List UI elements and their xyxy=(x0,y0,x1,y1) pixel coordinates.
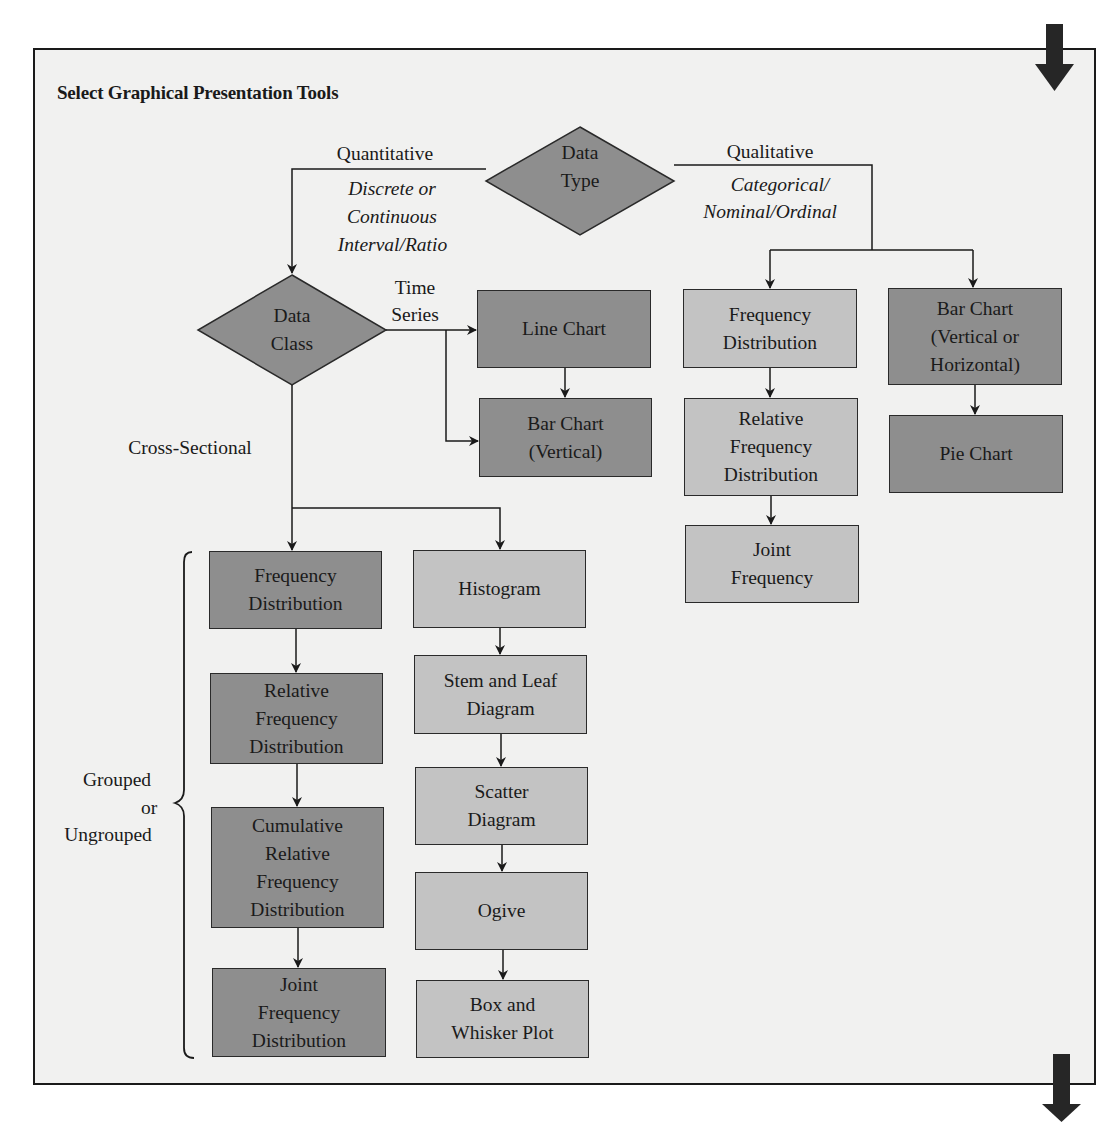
qualitative-label: Qualitative xyxy=(710,138,830,165)
relative-frequency-distribution-box: Relative Frequency Distribution xyxy=(210,673,383,764)
diagram-title: Select Graphical Presentation Tools xyxy=(57,82,338,104)
grouped-brace xyxy=(175,552,194,1058)
qualitative-joint-frequency-box: Joint Frequency xyxy=(685,525,859,603)
quantitative-desc-1: Discrete or xyxy=(322,175,462,202)
frequency-distribution-box: Frequency Distribution xyxy=(209,551,382,629)
stem-and-leaf-box: Stem and Leaf Diagram xyxy=(414,655,587,734)
continue-bottom-arrow-icon xyxy=(1042,1054,1081,1122)
qualitative-relative-frequency-box: Relative Frequency Distribution xyxy=(684,398,858,496)
line-chart-box: Line Chart xyxy=(477,290,651,368)
ogive-box: Ogive xyxy=(415,872,588,950)
qualitative-desc-2: Nominal/Ordinal xyxy=(680,198,860,225)
grouped-label-2: or xyxy=(134,794,164,821)
data-class-label: Data Class xyxy=(252,302,332,358)
data-type-label: Data Type xyxy=(540,139,620,195)
time-series-label-2: Series xyxy=(382,301,448,328)
bar-chart-vertical-horizontal-box: Bar Chart (Vertical or Horizontal) xyxy=(888,288,1062,385)
quantitative-label: Quantitative xyxy=(320,140,450,167)
cross-sectional-label: Cross-Sectional xyxy=(110,434,270,461)
grouped-label-3: Ungrouped xyxy=(48,821,168,848)
qualitative-frequency-distribution-box: Frequency Distribution xyxy=(683,289,857,368)
bar-chart-vertical-box: Bar Chart (Vertical) xyxy=(479,398,652,477)
quantitative-desc-2: Continuous xyxy=(322,203,462,230)
cumulative-relative-frequency-box: Cumulative Relative Frequency Distributi… xyxy=(211,807,384,928)
joint-frequency-distribution-box: Joint Frequency Distribution xyxy=(212,968,386,1057)
grouped-label-1: Grouped xyxy=(72,766,162,793)
scatter-diagram-box: Scatter Diagram xyxy=(415,767,588,845)
histogram-box: Histogram xyxy=(413,550,586,628)
box-and-whisker-box: Box and Whisker Plot xyxy=(416,980,589,1058)
pie-chart-box: Pie Chart xyxy=(889,415,1063,493)
quantitative-desc-3: Interval/Ratio xyxy=(315,231,470,258)
qualitative-desc-1: Categorical/ xyxy=(700,171,860,198)
time-series-label-1: Time xyxy=(385,274,445,301)
continue-top-arrow-icon xyxy=(1035,24,1074,91)
